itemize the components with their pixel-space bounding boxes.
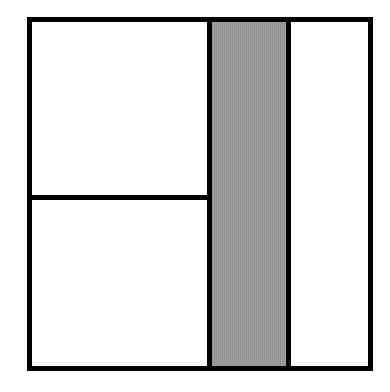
region-bottom-left xyxy=(32,200,207,366)
divider-vertical-left xyxy=(207,17,212,371)
outer-border-bottom xyxy=(27,366,373,371)
region-top-left xyxy=(32,22,207,195)
divider-vertical-right xyxy=(286,17,291,371)
outer-border-top xyxy=(27,17,373,22)
outer-border-left xyxy=(27,17,32,371)
divider-horizontal xyxy=(27,195,212,200)
outer-border-right xyxy=(368,17,373,371)
region-middle-strip-shaded xyxy=(212,22,286,366)
region-right-strip xyxy=(291,22,368,366)
